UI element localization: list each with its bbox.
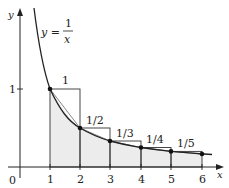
diagram: 0 1 2 3 4 5 6 1 x y y = 1 x 1 1/2 1/3 1/…: [0, 0, 229, 188]
rect-label-1: 1: [62, 74, 69, 87]
equation-lhs: y =: [40, 26, 60, 39]
equation-denominator: x: [64, 33, 71, 46]
origin-label: 0: [9, 174, 16, 187]
rect-label-5: 1/5: [177, 137, 195, 150]
x-tick-2: 2: [77, 173, 84, 186]
y-axis-label: y: [7, 9, 14, 20]
x-tick-5: 5: [168, 173, 175, 186]
rect-label-4: 1/4: [146, 133, 164, 146]
x-tick-6: 6: [199, 173, 206, 186]
y-axis-arrow-icon: [17, 8, 23, 16]
y-tick-1: 1: [9, 83, 16, 96]
equation-numerator: 1: [65, 17, 72, 30]
rect-label-2: 1/2: [86, 114, 104, 127]
x-tick-4: 4: [138, 173, 145, 186]
x-axis-label: x: [217, 169, 223, 180]
x-tick-3: 3: [107, 173, 114, 186]
x-tick-1: 1: [47, 173, 54, 186]
rect-label-3: 1/3: [116, 127, 134, 140]
